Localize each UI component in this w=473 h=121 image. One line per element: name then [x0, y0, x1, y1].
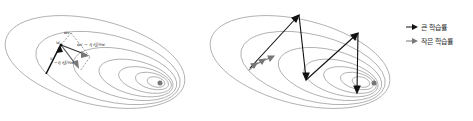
legend-label-large-lr: 큰 학습률 [421, 22, 447, 32]
legend-item-large-lr: 큰 학습률 [406, 22, 447, 32]
small-lr-trajectory [249, 56, 274, 70]
right-contours [201, 0, 400, 121]
minimum-point-right [372, 81, 377, 86]
left-vectors [46, 33, 90, 74]
gray-arrow-icon [406, 38, 418, 44]
label-alpha-v: αv [64, 30, 70, 35]
minimum-point-left [158, 81, 163, 86]
label-combined: αv − η ∂J/∂w [77, 42, 105, 47]
large-lr-trajectory [250, 15, 360, 93]
label-neg-grad: −η ∂J/∂w [54, 60, 74, 65]
legend-label-small-lr: 작은 학습률 [421, 36, 453, 46]
left-contours [0, 0, 194, 121]
legend-item-small-lr: 작은 학습률 [406, 36, 453, 46]
black-arrow-icon [406, 24, 418, 30]
label-w: w [56, 40, 60, 45]
diagram-canvas: v w αv αv − η ∂J/∂w −η ∂J/∂w [0, 0, 473, 121]
